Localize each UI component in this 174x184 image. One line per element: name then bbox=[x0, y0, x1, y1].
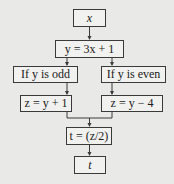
node-t-calc: t = (z/2) bbox=[66, 127, 112, 145]
node-if-y-even: If y is even bbox=[101, 66, 166, 83]
node-z-even: z = y − 4 bbox=[101, 95, 163, 112]
node-t: t bbox=[74, 156, 106, 174]
node-if-y-odd: If y is odd bbox=[13, 66, 78, 83]
node-y-equation: y = 3x + 1 bbox=[55, 40, 124, 58]
node-z-odd: z = y + 1 bbox=[20, 95, 72, 112]
node-x: x bbox=[73, 9, 106, 27]
